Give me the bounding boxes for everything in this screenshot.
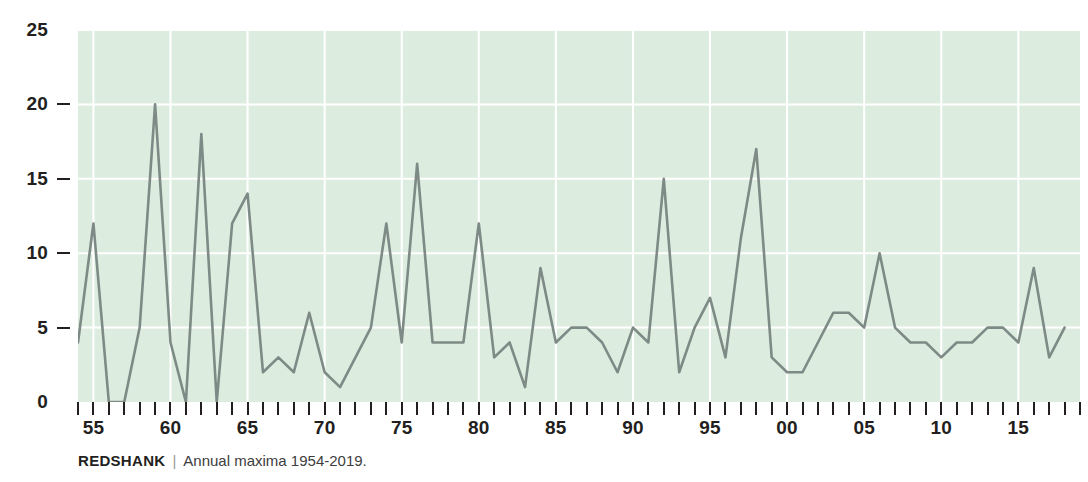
x-axis-tick — [370, 402, 372, 415]
plot-svg — [78, 30, 1080, 402]
x-axis-tick — [755, 402, 757, 415]
y-axis-tick-label: 25 — [26, 19, 48, 41]
x-axis-tick — [925, 402, 927, 415]
x-axis-tick — [740, 402, 742, 415]
caption: REDSHANK | Annual maxima 1954-2019. — [78, 452, 367, 469]
x-axis-tick — [1064, 402, 1066, 415]
x-axis-tick — [247, 402, 249, 415]
x-axis-tick — [771, 402, 773, 415]
caption-description: Annual maxima 1954-2019. — [183, 452, 366, 469]
chart-figure: 0510152025 55606570758085909500051015 RE… — [0, 0, 1088, 482]
x-axis-tick — [1002, 402, 1004, 415]
x-axis-tick-label: 75 — [391, 417, 413, 439]
x-axis-tick — [617, 402, 619, 415]
y-axis-tick-label: 10 — [26, 242, 48, 264]
x-axis-tick-label: 05 — [853, 417, 875, 439]
x-axis-tick — [277, 402, 279, 415]
x-axis-tick-label: 80 — [468, 417, 490, 439]
y-axis-tick: 0 — [37, 392, 70, 412]
x-axis-tick — [231, 402, 233, 415]
x-axis-tick — [216, 402, 218, 415]
x-axis-tick — [555, 402, 557, 415]
x-axis-tick-label: 15 — [1008, 417, 1030, 439]
x-axis-tick — [724, 402, 726, 415]
x-axis-tick — [139, 402, 141, 415]
x-axis-tick — [909, 402, 911, 415]
y-axis-tick: 25 — [26, 20, 70, 40]
x-axis-tick-label: 95 — [699, 417, 721, 439]
x-axis-tick — [678, 402, 680, 415]
x-axis-ticks — [78, 402, 1080, 415]
x-axis-tick-label: 65 — [237, 417, 259, 439]
x-axis-tick — [709, 402, 711, 415]
x-axis-tick — [1048, 402, 1050, 415]
y-axis-tick: 15 — [26, 169, 70, 189]
x-axis-tick — [786, 402, 788, 415]
x-axis-tick — [940, 402, 942, 415]
x-axis-tick — [647, 402, 649, 415]
x-axis-tick — [92, 402, 94, 415]
x-axis-tick — [108, 402, 110, 415]
x-axis-tick-label: 10 — [930, 417, 952, 439]
x-axis-tick — [169, 402, 171, 415]
x-axis-tick — [894, 402, 896, 415]
x-axis-tick — [802, 402, 804, 415]
x-axis-tick — [987, 402, 989, 415]
x-axis-tick — [185, 402, 187, 415]
x-axis-tick-label: 60 — [160, 417, 182, 439]
x-axis-tick — [385, 402, 387, 415]
x-axis-tick — [293, 402, 295, 415]
x-axis-tick — [1033, 402, 1035, 415]
y-axis-tick: 20 — [26, 94, 70, 114]
caption-separator: | — [165, 452, 183, 469]
y-axis-tick-dash — [57, 401, 70, 403]
x-axis-tick — [432, 402, 434, 415]
x-axis-tick — [586, 402, 588, 415]
x-axis-tick — [77, 402, 79, 415]
y-axis-tick-dash — [57, 178, 70, 180]
x-axis-tick — [154, 402, 156, 415]
y-axis: 0510152025 — [0, 0, 78, 420]
x-axis-tick-label: 55 — [83, 417, 105, 439]
x-axis-tick — [308, 402, 310, 415]
y-axis-tick-label: 0 — [37, 391, 48, 413]
x-axis-tick — [632, 402, 634, 415]
x-axis-tick — [863, 402, 865, 415]
y-axis-tick-dash — [57, 29, 70, 31]
x-axis-tick — [524, 402, 526, 415]
x-axis-tick — [123, 402, 125, 415]
x-axis-tick-label: 85 — [545, 417, 567, 439]
vertical-gridlines — [93, 30, 1018, 402]
x-axis-tick — [570, 402, 572, 415]
x-axis-tick — [601, 402, 603, 415]
x-axis-tick — [956, 402, 958, 415]
x-axis-tick — [879, 402, 881, 415]
x-axis-tick — [339, 402, 341, 415]
x-axis-tick-label: 70 — [314, 417, 336, 439]
x-axis-tick-label: 00 — [776, 417, 798, 439]
x-axis-tick — [832, 402, 834, 415]
x-axis-tick — [262, 402, 264, 415]
y-axis-tick-label: 5 — [37, 317, 48, 339]
x-axis-tick — [539, 402, 541, 415]
caption-species-name: REDSHANK — [78, 452, 165, 469]
x-axis-tick — [416, 402, 418, 415]
x-axis-tick — [493, 402, 495, 415]
y-axis-tick-dash — [57, 103, 70, 105]
x-axis-tick — [848, 402, 850, 415]
x-axis-tick — [478, 402, 480, 415]
x-axis-tick — [817, 402, 819, 415]
y-axis-tick-dash — [57, 327, 70, 329]
x-axis-tick-label: 90 — [622, 417, 644, 439]
y-axis-tick-label: 20 — [26, 93, 48, 115]
y-axis-tick: 10 — [26, 243, 70, 263]
x-axis-tick — [354, 402, 356, 415]
plot-area — [78, 30, 1080, 402]
x-axis-tick — [694, 402, 696, 415]
x-axis-tick — [447, 402, 449, 415]
x-axis-tick — [1017, 402, 1019, 415]
y-axis-tick: 5 — [37, 318, 70, 338]
x-axis-tick — [663, 402, 665, 415]
x-axis-tick — [401, 402, 403, 415]
x-axis-tick — [324, 402, 326, 415]
